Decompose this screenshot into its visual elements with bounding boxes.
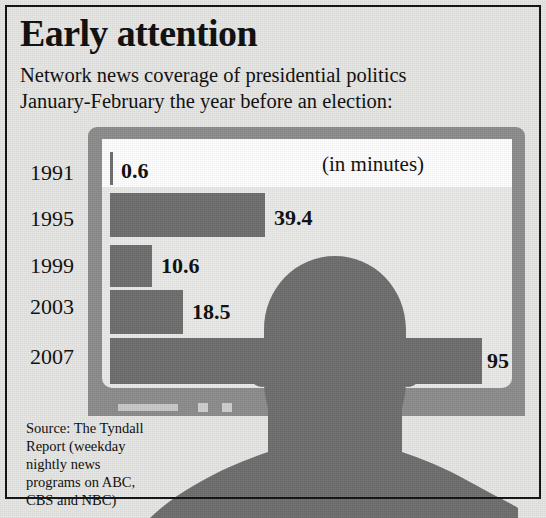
tv-speaker-grille-icon	[118, 404, 178, 411]
year-label-1995: 1995	[30, 206, 94, 232]
page-subtitle: Network news coverage of presidential po…	[20, 62, 520, 114]
tv-button-2-icon	[222, 403, 232, 412]
source-line-4: programs on ABC,	[26, 474, 196, 492]
year-label-1991: 1991	[30, 160, 94, 186]
bar-1991	[110, 152, 113, 185]
bar-value-1999: 10.6	[161, 253, 200, 279]
bar-2007	[110, 338, 482, 384]
subtitle-line-2: January-February the year before an elec…	[20, 88, 520, 114]
bar-value-1991: 0.6	[121, 158, 149, 184]
page-title: Early attention	[20, 14, 257, 53]
infographic-early-attention: Early attention Network news coverage of…	[0, 0, 546, 518]
year-label-2003: 2003	[30, 294, 94, 320]
source-line-1: Source: The Tyndall	[26, 420, 196, 438]
source-line-5: CBS and NBC)	[26, 492, 196, 510]
bar-value-1995: 39.4	[274, 205, 313, 231]
year-label-2007: 2007	[30, 344, 94, 370]
tv-button-1-icon	[198, 403, 208, 412]
year-label-1999: 1999	[30, 253, 94, 279]
bar-value-2003: 18.5	[192, 299, 231, 325]
bar-2003	[110, 290, 183, 334]
bar-value-2007: 95	[487, 348, 509, 374]
bar-1995	[110, 193, 265, 237]
source-note: Source: The Tyndall Report (weekday nigh…	[26, 420, 196, 510]
subtitle-line-1: Network news coverage of presidential po…	[20, 62, 520, 88]
source-line-3: nightly news	[26, 456, 196, 474]
source-line-2: Report (weekday	[26, 438, 196, 456]
chart-top-white-band	[102, 139, 512, 187]
bar-1999	[110, 245, 152, 287]
chart-units-note: (in minutes)	[322, 152, 424, 177]
